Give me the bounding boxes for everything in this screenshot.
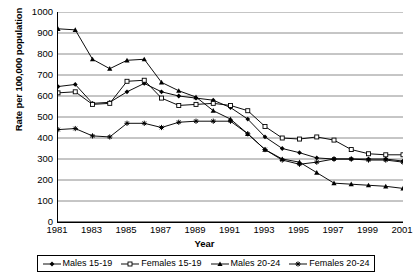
data-point-open-square: [58, 91, 60, 95]
data-point-filled-plus: [296, 261, 301, 266]
y-tick-label: 900: [7, 28, 53, 38]
data-point-filled-diamond: [49, 261, 54, 266]
data-point-filled-plus: [176, 120, 181, 125]
x-axis-title: Year: [0, 238, 409, 249]
plot-svg: [58, 12, 403, 222]
data-point-filled-plus: [280, 157, 285, 162]
data-point-filled-plus: [159, 125, 164, 130]
data-point-filled-plus: [331, 156, 336, 161]
data-point-filled-plus: [73, 126, 78, 131]
data-point-open-square: [384, 153, 388, 157]
legend-item: Females 15-19: [121, 259, 201, 269]
data-point-filled-diamond: [58, 84, 60, 89]
x-tick-label: 1983: [77, 225, 107, 235]
y-tick-label: 500: [7, 112, 53, 122]
data-point-open-square: [177, 103, 181, 107]
data-point-filled-diamond: [297, 150, 302, 155]
data-point-open-square: [91, 102, 95, 106]
data-point-filled-plus: [90, 133, 95, 138]
data-point-filled-plus: [107, 134, 112, 139]
legend-marker-filled-diamond: [43, 259, 61, 269]
y-tick-label: 100: [7, 196, 53, 206]
legend-label: Males 20-24: [231, 259, 281, 268]
data-point-filled-triangle: [90, 57, 95, 62]
data-point-open-square: [125, 79, 129, 83]
series-females-20-24: [58, 119, 403, 167]
x-tick-label: 1985: [111, 225, 141, 235]
data-point-filled-plus: [297, 162, 302, 167]
y-tick-label: 800: [7, 49, 53, 59]
x-tick-label: 1995: [284, 225, 314, 235]
x-tick-label: 1989: [180, 225, 210, 235]
data-point-open-square: [128, 262, 132, 266]
chart-legend: Males 15-19Females 15-19Males 20-24Femal…: [37, 255, 375, 272]
data-point-open-square: [401, 153, 403, 157]
legend-label: Males 15-19: [63, 259, 113, 268]
y-tick-label: 1000: [7, 7, 53, 17]
data-point-filled-plus: [142, 121, 147, 126]
data-point-open-square: [73, 90, 77, 94]
x-tick-label: 1991: [215, 225, 245, 235]
y-axis-tick-labels: 01002003004005006007008009001000: [0, 0, 57, 240]
data-point-filled-plus: [383, 157, 388, 162]
plot-area: [57, 12, 403, 223]
data-point-filled-plus: [211, 119, 216, 124]
data-point-filled-triangle: [176, 88, 181, 93]
data-series-layer: [58, 26, 403, 190]
x-axis-tick-labels: 1981198319851987198919911993199519971999…: [0, 225, 409, 239]
legend-item: Males 15-19: [43, 259, 113, 269]
data-point-open-square: [349, 148, 353, 152]
data-point-open-square: [229, 103, 233, 107]
data-point-filled-triangle: [107, 66, 112, 71]
x-tick-label: 2001: [387, 225, 417, 235]
data-point-open-square: [332, 138, 336, 142]
y-tick-label: 200: [7, 175, 53, 185]
y-tick-label: 600: [7, 91, 53, 101]
data-point-filled-plus: [366, 157, 371, 162]
data-point-filled-plus: [262, 147, 267, 152]
data-point-filled-diamond: [159, 89, 164, 94]
data-point-open-square: [280, 136, 284, 140]
data-point-filled-diamond: [176, 94, 181, 99]
legend-label: Females 20-24: [309, 259, 369, 268]
data-point-filled-plus: [124, 121, 129, 126]
legend-marker-filled-triangle: [211, 259, 229, 269]
data-point-filled-plus: [349, 156, 354, 161]
data-point-filled-plus: [193, 119, 198, 124]
legend-label: Females 15-19: [141, 259, 201, 268]
data-point-open-square: [108, 101, 112, 105]
legend-item: Females 20-24: [289, 259, 369, 269]
legend-marker-open-square: [121, 259, 139, 269]
data-point-open-square: [298, 137, 302, 141]
data-point-filled-plus: [58, 127, 61, 132]
data-point-filled-plus: [314, 160, 319, 165]
data-point-open-square: [211, 101, 215, 105]
data-point-open-square: [246, 109, 250, 113]
legend-item: Males 20-24: [211, 259, 281, 269]
legend-marker-filled-plus: [289, 259, 307, 269]
data-point-filled-diamond: [125, 89, 130, 94]
data-point-open-square: [194, 102, 198, 106]
data-point-open-square: [315, 135, 319, 139]
data-point-open-square: [367, 152, 371, 156]
x-tick-label: 1997: [318, 225, 348, 235]
data-point-open-square: [160, 96, 164, 100]
y-tick-label: 300: [7, 154, 53, 164]
x-tick-label: 1993: [249, 225, 279, 235]
data-point-open-square: [142, 78, 146, 82]
data-point-open-square: [263, 124, 267, 128]
x-tick-label: 1981: [42, 225, 72, 235]
y-tick-label: 400: [7, 133, 53, 143]
x-tick-label: 1987: [146, 225, 176, 235]
data-point-filled-plus: [400, 160, 403, 165]
x-tick-label: 1999: [353, 225, 383, 235]
data-point-filled-triangle: [314, 170, 319, 175]
y-tick-label: 700: [7, 70, 53, 80]
